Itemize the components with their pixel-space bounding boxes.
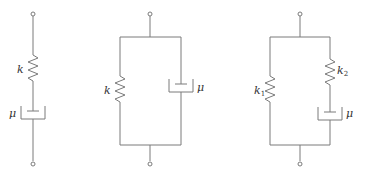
spring-k1-label: k1 (254, 84, 265, 98)
maxwell-model: k μ (9, 12, 45, 166)
bottom-terminal-icon (148, 162, 152, 166)
dashpot-label: μ (197, 81, 204, 94)
standard-linear-solid-model: k1 k2 μ (254, 12, 353, 166)
spring-label: k (17, 63, 24, 76)
top-terminal-icon (148, 12, 152, 16)
spring-icon (28, 55, 38, 81)
top-terminal-icon (31, 12, 35, 16)
spring-icon (115, 76, 125, 102)
kelvin-voigt-model: k μ (104, 12, 204, 166)
rheology-diagrams: k μ k μ (0, 0, 366, 180)
top-terminal-icon (298, 12, 302, 16)
dashpot-label: μ (346, 107, 353, 120)
spring-k2-icon (325, 59, 335, 85)
bottom-terminal-icon (298, 162, 302, 166)
spring-label: k (104, 84, 111, 97)
bottom-terminal-icon (31, 162, 35, 166)
spring-k2-label: k2 (337, 64, 348, 78)
spring-k1-icon (265, 76, 275, 102)
dashpot-label: μ (9, 107, 16, 120)
